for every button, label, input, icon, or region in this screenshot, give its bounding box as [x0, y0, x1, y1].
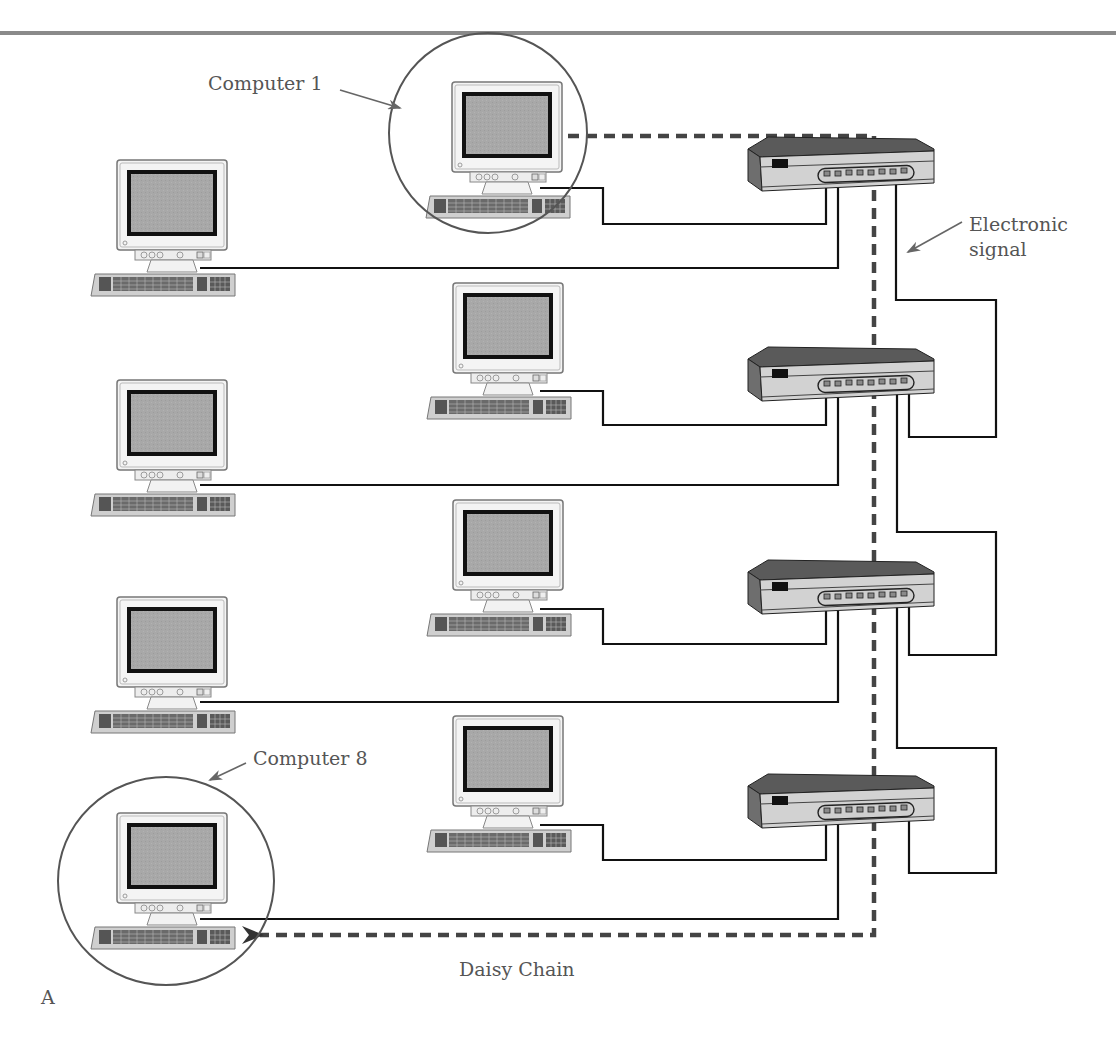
computer-8-label: Computer 8 [253, 748, 367, 770]
hub-2 [748, 347, 934, 401]
computer-7 [427, 716, 571, 852]
computer-2 [91, 160, 235, 296]
header-rule [0, 31, 1116, 35]
computer-8-arrow-icon [210, 763, 246, 780]
hub-4 [748, 774, 934, 828]
computer-1 [426, 82, 570, 218]
computer-8 [91, 813, 235, 949]
computer-4 [91, 380, 235, 516]
signal-arrow-icon [908, 222, 962, 252]
diagram-caption: Daisy Chain [459, 959, 575, 981]
electronic-signal-label-line2: signal [969, 239, 1027, 261]
daisy-chain-diagram: Computer 1 Computer 8 Electronic signal … [0, 0, 1116, 1038]
panel-letter: A [41, 987, 55, 1009]
computer-1-arrow-icon [340, 90, 400, 108]
computer-3 [427, 283, 571, 419]
hub-3 [748, 560, 934, 614]
electronic-signal-label-line1: Electronic [969, 214, 1068, 236]
computer-5 [427, 500, 571, 636]
computer-1-label: Computer 1 [208, 73, 322, 95]
hub-1 [748, 137, 934, 191]
computer-6 [91, 597, 235, 733]
network-diagram-canvas [0, 0, 1116, 1038]
